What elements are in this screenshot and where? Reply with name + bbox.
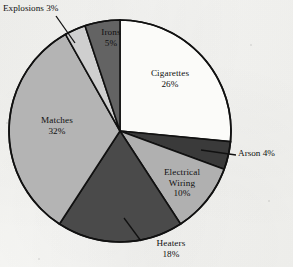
slice-label-cigarettes: Cigarettes 26% <box>137 68 203 89</box>
slice-label-electrical-wiring: Electrical Wiring 10% <box>156 167 208 199</box>
slice-label-cigarettes-name: Cigarettes <box>137 68 203 79</box>
pie-chart-figure: Cigarettes 26% Matches 32% Electrical Wi… <box>0 0 293 267</box>
slice-label-electrical-value: 10% <box>156 188 208 199</box>
slice-label-cigarettes-value: 26% <box>137 79 203 90</box>
slice-callout-explosions: Explosions 3% <box>3 3 58 14</box>
slice-label-irons-name: Irons <box>94 27 128 38</box>
slice-label-matches: Matches 32% <box>26 115 88 136</box>
slice-label-heaters: Heaters 18% <box>143 238 199 259</box>
slice-label-heaters-name: Heaters <box>143 238 199 249</box>
slice-label-electrical-line2: Wiring <box>156 178 208 189</box>
slice-callout-arson: Arson 4% <box>238 148 275 159</box>
slice-label-matches-value: 32% <box>26 126 88 137</box>
slice-label-heaters-value: 18% <box>143 249 199 260</box>
slice-label-irons: Irons 5% <box>94 27 128 48</box>
slice-label-electrical-line1: Electrical <box>156 167 208 178</box>
slice-label-irons-value: 5% <box>94 38 128 49</box>
slice-label-matches-name: Matches <box>26 115 88 126</box>
